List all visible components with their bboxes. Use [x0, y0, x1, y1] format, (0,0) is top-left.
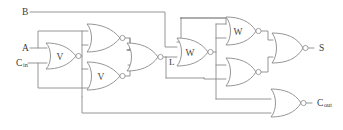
input-label-cin: C	[16, 58, 22, 68]
input-label-a: A	[22, 43, 29, 53]
gate-nor-l-body	[127, 43, 158, 71]
gate-nor-w1-label: W	[186, 48, 195, 58]
wire-cin-branch-down	[38, 63, 88, 88]
wire-a-branch-up	[38, 31, 88, 48]
gate-nor-s-bubble	[303, 45, 308, 50]
output-label-s: S	[319, 43, 324, 53]
gate-nor-cout-body	[271, 89, 301, 117]
input-label-cin-subscript: in	[23, 61, 28, 68]
gate-nor-b1-bubble	[256, 69, 261, 74]
gate-nor-cout[interactable]	[271, 89, 306, 117]
circuit-diagram: V V W	[0, 0, 343, 130]
gate-nor-u1[interactable]	[87, 24, 125, 52]
gate-nor-v2[interactable]: V	[87, 62, 125, 90]
gate-nor-l-bubble	[158, 54, 163, 59]
gate-nor-v1-label: V	[57, 52, 64, 62]
gate-nor-w1-bubble	[208, 49, 213, 54]
output-label-cout-subscript: out	[324, 101, 332, 108]
wire-b1-lower-input	[204, 78, 226, 79]
gate-nor-v2-bubble	[120, 73, 125, 78]
gate-nor-v2-label: V	[98, 72, 105, 82]
gate-nor-s[interactable]	[272, 33, 308, 63]
gate-nor-w2-bubble	[256, 28, 261, 33]
gate-nor-s-body	[272, 33, 303, 63]
wire-w2-top-input	[181, 18, 226, 24]
signal-label-l: L	[169, 57, 175, 67]
gate-nor-b1-body	[226, 58, 256, 86]
gate-nor-w2[interactable]: W	[226, 17, 261, 45]
gate-nor-w1[interactable]: W	[177, 38, 213, 66]
output-label-cout: C	[317, 98, 323, 108]
gate-nor-cout-bubble	[301, 100, 306, 105]
circuit-schematic-canvas: V V W	[0, 0, 343, 130]
gate-nor-v1-bubble	[76, 53, 81, 58]
gate-nor-b1[interactable]	[226, 58, 261, 86]
input-label-b: B	[22, 7, 28, 17]
gate-layer: V V W	[46, 17, 308, 117]
gate-nor-u1-body	[87, 24, 120, 52]
gate-nor-l[interactable]	[127, 43, 163, 71]
gate-nor-w2-label: W	[234, 27, 243, 37]
gate-nor-v1[interactable]: V	[46, 43, 81, 69]
gate-nor-u1-bubble	[120, 35, 125, 40]
